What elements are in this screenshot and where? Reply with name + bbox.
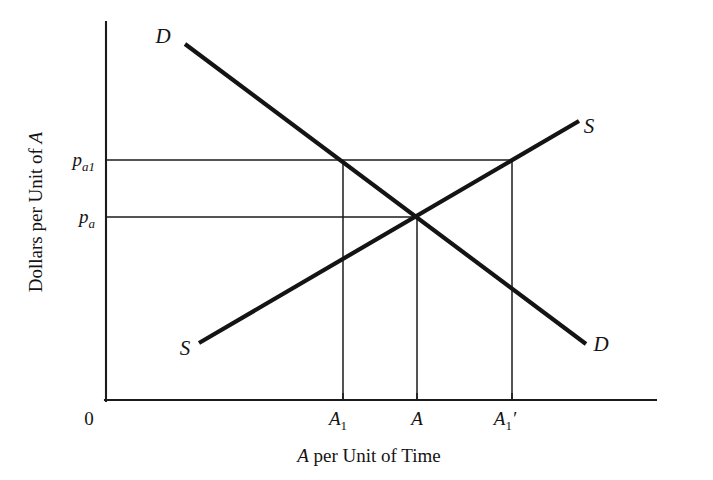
y-axis-title: Dollars per Unit of A (25, 131, 46, 292)
quantity-supplied-prime: ′ (512, 408, 517, 429)
supply-label-lower: S (180, 336, 191, 360)
quantity-demanded-label: A1 (327, 408, 347, 433)
x-axis-title-symbol: A (295, 445, 309, 466)
quantity-equilibrium-symbol: A (409, 408, 423, 429)
price-equilibrium-symbol: p (77, 206, 89, 227)
price-raised-label: pa1 (71, 149, 96, 174)
quantity-supplied-symbol: A (492, 408, 506, 429)
origin-label: 0 (84, 408, 94, 429)
price-equilibrium-label: pa (77, 206, 96, 231)
price-raised-subscript: a1 (82, 159, 95, 174)
price-raised-symbol: p (71, 149, 83, 170)
demand-label-lower: D (592, 332, 608, 356)
supply-label-upper: S (584, 114, 595, 138)
price-equilibrium-subscript: a (89, 216, 96, 231)
y-axis-title-symbol: A (25, 131, 46, 145)
quantity-demanded-symbol: A (327, 408, 341, 429)
demand-label-upper: D (154, 24, 170, 48)
quantity-equilibrium-label: A (409, 408, 423, 429)
quantity-demanded-subscript: 1 (341, 418, 348, 433)
demand-curve (185, 44, 586, 344)
x-axis-title: A per Unit of Time (295, 445, 441, 466)
quantity-supplied-label: A1′ (492, 408, 517, 433)
figure-canvas: D D S S pa1 pa 0 A1 A A1′ A per Unit of … (0, 0, 713, 480)
supply-curve (199, 121, 579, 343)
supply-demand-figure: D D S S pa1 pa 0 A1 A A1′ A per Unit of … (0, 0, 713, 480)
x-axis-title-text: per Unit of Time (309, 445, 441, 466)
y-axis-title-text: Dollars per Unit of (25, 143, 46, 292)
